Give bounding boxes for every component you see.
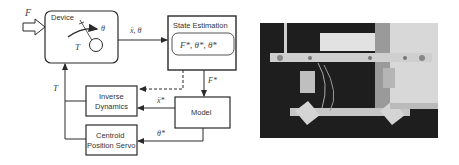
device-angle-label: θ <box>101 24 105 33</box>
photo-crossbar <box>270 53 432 62</box>
edge-device-to-estimator-label: ẍ, θ <box>129 26 142 35</box>
device-label: Device <box>51 13 74 22</box>
centroid-servo-label-line1: Centroid <box>96 131 124 140</box>
edge-estimator-to-model-label: F* <box>207 76 217 85</box>
centroid-servo-box <box>86 125 137 155</box>
state-estimation-label: State Estimation <box>173 21 228 30</box>
device-photograph <box>260 23 438 138</box>
model-label: Model <box>191 108 212 117</box>
edge-model-to-servo-label: θ* <box>157 129 165 138</box>
state-estimates-label: F*, θ*, θ̇* <box>179 40 217 50</box>
inverse-dynamics-label-line1: Inverse <box>99 92 124 101</box>
edge-model-to-inverse-label: ẍ* <box>156 96 165 105</box>
control-block-diagram: F Device θ T ẍ, θ State Estimation F*, θ… <box>0 0 240 165</box>
edge-model-to-servo <box>138 128 203 141</box>
centroid-servo-label-line2: Position Servo <box>87 141 135 150</box>
input-force-arrow <box>23 19 45 35</box>
inverse-dynamics-box <box>86 86 137 116</box>
feedback-torque-label: T <box>53 83 59 93</box>
input-force-label: F <box>24 7 32 18</box>
edge-estimator-to-inverse-dashed <box>140 70 183 89</box>
inverse-dynamics-label-line2: Dynamics <box>95 102 128 111</box>
